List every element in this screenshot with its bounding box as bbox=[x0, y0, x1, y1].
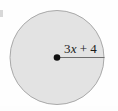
radius-label-operator: + bbox=[80, 41, 88, 56]
bottom-edge-scan-artifact bbox=[0, 106, 118, 111]
center-point-dot bbox=[54, 54, 61, 61]
diagram-canvas: 3x+4 bbox=[0, 0, 118, 111]
circle-diagram: 3x+4 bbox=[0, 0, 118, 111]
radius-label: 3x+4 bbox=[64, 41, 97, 56]
radius-label-coefficient: 3 bbox=[64, 41, 71, 56]
radius-label-variable: x bbox=[70, 41, 77, 56]
left-edge-scan-artifact bbox=[0, 10, 3, 17]
radius-label-constant: 4 bbox=[90, 41, 97, 56]
